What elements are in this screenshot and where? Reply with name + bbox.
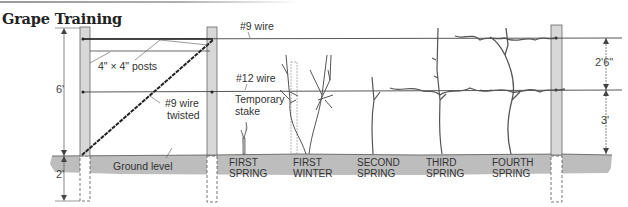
vine-first-winter <box>280 55 333 154</box>
twisted-label-line2: twisted <box>167 109 200 121</box>
ground-level-label: Ground level <box>113 160 173 172</box>
dim-3ft: 3' <box>601 114 609 126</box>
stage-label: SPRING <box>229 168 268 179</box>
mid-wire-label: #12 wire <box>236 72 276 84</box>
dim-6ft: 6' <box>56 83 64 95</box>
right-post-footing <box>551 156 562 202</box>
dim-2ft6in: 2'6" <box>595 56 613 68</box>
stage-label: THIRD <box>426 157 457 168</box>
left-post-footing <box>80 156 90 201</box>
stage-label: SPRING <box>357 168 396 179</box>
vine-first-spring <box>241 122 247 154</box>
stage-label: SPRING <box>492 168 531 179</box>
temporary-stake <box>291 62 297 154</box>
twisted-label-line1: #9 wire <box>165 97 199 109</box>
stage-label: SPRING <box>426 168 465 179</box>
stake-label-line2: stake <box>235 105 260 117</box>
vine-second-spring <box>372 77 380 154</box>
top-wire-label: #9 wire <box>240 20 274 32</box>
stage-label: WINTER <box>293 168 332 179</box>
stage-label: FIRST <box>293 157 322 168</box>
left-post <box>80 27 90 156</box>
middle-post-footing <box>207 156 217 202</box>
stage-label: FOURTH <box>492 157 533 168</box>
dim-2ft: 2' <box>56 168 64 180</box>
stage-label: FIRST <box>229 157 258 168</box>
stake-label-line1: Temporary <box>235 93 285 105</box>
posts-label: 4" × 4" posts <box>98 60 157 72</box>
stage-label: SECOND <box>357 157 400 168</box>
grape-trellis-diagram: #9 wire 4" × 4" posts #12 wire Temporary… <box>0 0 628 207</box>
